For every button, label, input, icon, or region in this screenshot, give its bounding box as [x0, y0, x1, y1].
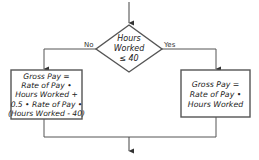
no-branch-line: [44, 49, 96, 69]
yes-box-line-3: Hours Worked: [182, 100, 249, 110]
decision-text: Hours Worked ≤ 40: [104, 34, 154, 64]
no-box-line-2: Rate of Pay •: [8, 81, 85, 90]
decision-line-3: ≤ 40: [104, 54, 154, 64]
merge-line: [44, 117, 216, 137]
yes-box-line-1: Gross Pay =: [182, 80, 249, 90]
decision-line-1: Hours: [104, 34, 154, 44]
no-box-line-3: Hours Worked +: [8, 90, 85, 99]
no-box-line-4: 0.5 • Rate of Pay •: [8, 100, 85, 109]
decision-line-2: Worked: [104, 44, 154, 54]
yes-branch-line: [162, 49, 216, 69]
no-box-text: Gross Pay = Rate of Pay • Hours Worked +…: [8, 72, 85, 118]
yes-box-text: Gross Pay = Rate of Pay • Hours Worked: [182, 80, 249, 110]
no-box-line-1: Gross Pay =: [8, 72, 85, 81]
yes-label: Yes: [164, 41, 175, 49]
no-box-line-5: (Hours Worked - 40): [8, 109, 85, 118]
no-label: No: [84, 41, 94, 49]
yes-box-line-2: Rate of Pay •: [182, 90, 249, 100]
